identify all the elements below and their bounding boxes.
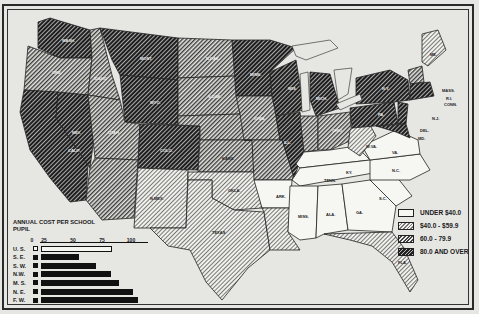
- bar: [41, 246, 112, 252]
- svg-text:IOWA: IOWA: [254, 116, 265, 121]
- svg-text:ALA.: ALA.: [326, 212, 335, 217]
- bar-row-marker: [33, 298, 38, 303]
- bar-row: M. S.: [13, 279, 119, 286]
- bar-row-marker: [33, 289, 38, 294]
- state-nj: [398, 102, 408, 124]
- state-vt-nh: [408, 66, 424, 84]
- svg-text:OKLA.: OKLA.: [228, 188, 240, 193]
- svg-text:KY.: KY.: [346, 170, 352, 175]
- svg-text:N.DAK.: N.DAK.: [206, 56, 220, 61]
- svg-text:MASS.: MASS.: [442, 88, 455, 93]
- bar-row-label: M. S.: [13, 280, 33, 286]
- lake-superior: [292, 40, 338, 60]
- svg-text:FLA.: FLA.: [398, 260, 407, 265]
- legend-swatch-medium-hatch: [398, 235, 414, 243]
- legend-label: 80.0 AND OVER: [420, 248, 469, 255]
- svg-text:CALIF.: CALIF.: [68, 148, 80, 153]
- bar: [41, 297, 138, 303]
- state-colo: [138, 124, 200, 170]
- bar-row: U. S.: [13, 245, 112, 252]
- state-ariz: [86, 158, 138, 220]
- bar-row-marker: [33, 246, 38, 251]
- legend-item-under-40: UNDER $40.0: [398, 207, 469, 218]
- svg-text:WASH.: WASH.: [62, 38, 75, 43]
- bar-row-marker: [33, 263, 38, 268]
- bar-row-label: S. W.: [13, 263, 33, 269]
- legend-item-40-59: $40.0 - $59.9: [398, 220, 469, 231]
- state-mont: [100, 28, 178, 80]
- svg-text:ILL.: ILL.: [284, 140, 291, 145]
- map-legend: UNDER $40.0 $40.0 - $59.9 60.0 - 79.9 80…: [398, 207, 469, 259]
- svg-text:TENN.: TENN.: [324, 178, 336, 183]
- axis-tick-label: 0: [31, 237, 34, 243]
- state-mass-ri-conn: [410, 82, 434, 100]
- svg-text:S.DAK.: S.DAK.: [208, 94, 222, 99]
- bar: [41, 271, 111, 277]
- svg-text:MINN.: MINN.: [250, 72, 261, 77]
- bar: [41, 263, 96, 269]
- svg-text:ORE.: ORE.: [52, 70, 62, 75]
- svg-text:N.C.: N.C.: [392, 168, 400, 173]
- svg-text:N.MEX.: N.MEX.: [150, 196, 164, 201]
- svg-text:WYO.: WYO.: [150, 100, 161, 105]
- svg-text:N.J.: N.J.: [432, 116, 439, 121]
- bar-row-marker: [33, 255, 38, 260]
- svg-text:OHIO: OHIO: [332, 128, 342, 133]
- svg-text:ARK.: ARK.: [276, 194, 286, 199]
- svg-text:MICH.: MICH.: [316, 96, 327, 101]
- bar-row-label: N. E.: [13, 289, 33, 295]
- svg-text:N.Y.: N.Y.: [382, 86, 389, 91]
- bar-row: S. W.: [13, 262, 96, 269]
- bar-row: S. E.: [13, 254, 79, 261]
- svg-text:MD.: MD.: [418, 136, 425, 141]
- legend-swatch-white: [398, 209, 414, 217]
- state-pa: [350, 102, 398, 128]
- state-miss: [288, 186, 318, 240]
- bar-row: N.W.: [13, 271, 111, 278]
- bar: [41, 254, 79, 260]
- svg-text:S.C.: S.C.: [379, 196, 387, 201]
- bar-row-label: U. S.: [13, 246, 33, 252]
- bar-row-label: F. W.: [13, 297, 33, 303]
- svg-text:CONN.: CONN.: [444, 102, 457, 107]
- legend-label: 60.0 - 79.9: [420, 235, 451, 242]
- legend-swatch-dark-hatch: [398, 248, 414, 256]
- svg-text:KANS.: KANS.: [222, 156, 234, 161]
- bar-row: N. E.: [13, 288, 133, 295]
- svg-text:TEXAS: TEXAS: [212, 230, 226, 235]
- state-me: [422, 30, 446, 66]
- bar-chart-axis: [40, 242, 148, 243]
- svg-text:PA.: PA.: [378, 112, 384, 117]
- bar-row: F. W.: [13, 297, 138, 304]
- legend-label: $40.0 - $59.9: [420, 222, 458, 229]
- state-wis: [270, 60, 304, 116]
- legend-label: UNDER $40.0: [420, 209, 461, 216]
- legend-swatch-light-hatch: [398, 222, 414, 230]
- svg-text:WIS.: WIS.: [288, 86, 297, 91]
- bar-row-label: N.W.: [13, 271, 33, 277]
- legend-item-80-plus: 80.0 AND OVER: [398, 246, 469, 257]
- svg-text:W.VA.: W.VA.: [366, 144, 377, 149]
- svg-text:NEV.: NEV.: [72, 130, 81, 135]
- bar-row-label: S. E.: [13, 254, 33, 260]
- svg-text:GA.: GA.: [356, 210, 363, 215]
- bar: [41, 289, 133, 295]
- svg-text:MONT.: MONT.: [140, 56, 152, 61]
- lake-huron: [334, 68, 352, 100]
- legend-item-60-79: 60.0 - 79.9: [398, 233, 469, 244]
- bar-chart-title: ANNUAL COST PER SCHOOL PUPIL: [13, 219, 103, 232]
- svg-text:IDAHO: IDAHO: [94, 76, 107, 81]
- bar-row-marker: [33, 280, 38, 285]
- state-wyo: [120, 75, 178, 125]
- lake-michigan: [300, 72, 310, 112]
- svg-text:VA.: VA.: [392, 150, 398, 155]
- svg-text:COLO.: COLO.: [160, 148, 173, 153]
- bar: [41, 280, 119, 286]
- svg-text:MISS.: MISS.: [298, 214, 309, 219]
- bar-row-marker: [33, 272, 38, 277]
- svg-text:ME.: ME.: [430, 52, 437, 57]
- svg-text:R.I.: R.I.: [446, 96, 452, 101]
- svg-text:UTAH: UTAH: [108, 130, 119, 135]
- svg-text:DEL.: DEL.: [420, 128, 429, 133]
